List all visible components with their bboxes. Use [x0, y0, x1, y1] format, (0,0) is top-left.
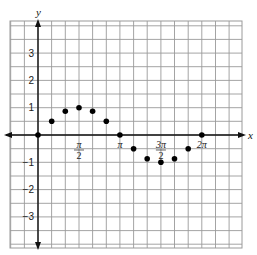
x-axis-label: x [247, 129, 253, 141]
data-point [76, 105, 82, 111]
y-tick-label: 3 [28, 48, 34, 59]
data-point [144, 156, 150, 162]
y-axis-arrow-up-icon [35, 19, 41, 27]
y-tick-label: −2 [23, 184, 35, 195]
data-point [117, 132, 123, 138]
data-point [104, 119, 110, 125]
data-point [49, 119, 55, 125]
y-tick-label: −1 [23, 157, 35, 168]
data-point [90, 108, 96, 114]
data-point [158, 160, 164, 166]
data-point [172, 156, 178, 162]
data-point [185, 146, 191, 152]
x-tick-label-denominator: 2 [77, 150, 82, 161]
sine-chart: xy321−1−2−3π2π3π22π [0, 0, 257, 255]
data-point [35, 132, 41, 138]
y-axis-label: y [35, 6, 41, 18]
x-tick-label-numerator: 3π [155, 139, 167, 150]
x-tick-label-denominator: 2 [158, 150, 163, 161]
y-axis-arrow-down-icon [35, 242, 41, 250]
y-tick-label: −3 [23, 211, 35, 222]
data-point [199, 132, 205, 138]
y-tick-label: 2 [28, 75, 34, 86]
data-point [131, 146, 137, 152]
x-tick-label: 2π [197, 139, 208, 150]
y-tick-label: 1 [28, 102, 34, 113]
x-axis-arrow-left-icon [4, 132, 12, 138]
data-point [63, 108, 69, 114]
